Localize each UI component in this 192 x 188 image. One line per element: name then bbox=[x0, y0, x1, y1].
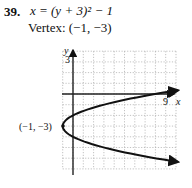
x-axis-label: x bbox=[175, 96, 181, 107]
vertex-label: (−1, −3) bbox=[19, 121, 52, 133]
x-tick-label: 9 bbox=[163, 96, 168, 107]
y-tick-label: 3 bbox=[65, 54, 70, 65]
parabola-graph: y 3 9 x (−1, −3) bbox=[0, 0, 192, 188]
vertex-point bbox=[61, 124, 65, 128]
